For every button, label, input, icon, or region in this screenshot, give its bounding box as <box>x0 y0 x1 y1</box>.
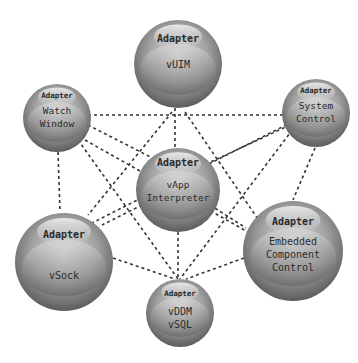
node-badge-label: Adapter <box>164 289 196 298</box>
node-badge-label: Adapter <box>43 229 85 240</box>
node-badge-label: Adapter <box>300 86 332 95</box>
node-embedded[interactable]: AdapterEmbeddedComponentControl <box>243 201 343 301</box>
edge-vsock-vddm <box>113 258 175 279</box>
node-badge-label: Adapter <box>157 33 199 44</box>
node-title-line: Interpreter <box>147 192 210 203</box>
node-title-line: Control <box>296 113 336 124</box>
node-vuim[interactable]: AdaptervUIM <box>134 20 222 108</box>
node-title-line: Watch <box>43 105 72 116</box>
node-title-line: vSock <box>49 270 79 281</box>
node-title-line: Control <box>272 262 314 273</box>
sphere-inner-band <box>22 239 106 296</box>
node-vsock[interactable]: AdaptervSock <box>15 213 113 311</box>
node-title-line: Window <box>40 118 75 129</box>
node-title-line: vSQL <box>168 319 192 330</box>
node-title-line: vApp <box>167 179 190 190</box>
node-badge-label: Adapter <box>272 216 314 227</box>
edge-system-embedded <box>293 148 315 200</box>
node-title-line: System <box>299 100 334 111</box>
node-title-line: Embedded <box>269 236 317 247</box>
node-badge-label: Adapter <box>157 157 199 168</box>
edge-embedded-vddm <box>186 258 244 279</box>
node-vapp[interactable]: AdaptervAppInterpreter <box>136 148 220 232</box>
node-system[interactable]: AdapterSystemControl <box>282 79 350 147</box>
node-title-line: vUIM <box>166 59 190 70</box>
node-badge-label: Adapter <box>41 91 73 100</box>
sphere-inner-band <box>151 297 209 336</box>
node-title-line: Component <box>266 249 320 260</box>
edge-system-vapp <box>202 125 290 166</box>
adapter-network-diagram: AdaptervUIMAdapterWatchWindowAdapterSyst… <box>0 0 358 363</box>
node-watch[interactable]: AdapterWatchWindow <box>23 84 91 152</box>
edge-watch-vsock <box>58 152 60 212</box>
node-vddm[interactable]: AdaptervDDMvSQL <box>146 279 214 347</box>
node-title-line: vDDM <box>168 306 192 317</box>
